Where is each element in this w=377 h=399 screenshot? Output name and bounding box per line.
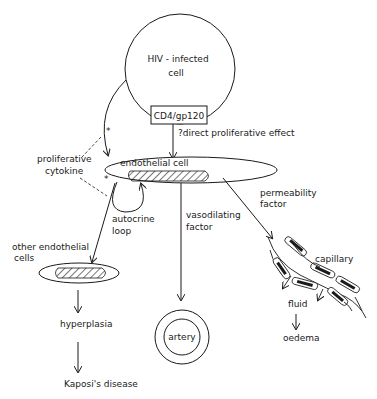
endothelial-cell-label: endothelial cell bbox=[120, 158, 189, 168]
permeability-label-1: permeability bbox=[260, 188, 317, 198]
asterisk-upper: * bbox=[106, 126, 111, 136]
hyperplasia-label: hyperplasia bbox=[60, 319, 112, 329]
other-cells-label-1: other endothelial bbox=[12, 242, 89, 252]
endothelial-cell: endothelial cell bbox=[105, 157, 277, 183]
other-cells-label-2: cells bbox=[14, 253, 34, 263]
capillary-label: capillary bbox=[315, 254, 354, 264]
hiv-cell-label-2: cell bbox=[168, 68, 184, 78]
artery-label: artery bbox=[168, 332, 196, 342]
autocrine-label-1: autocrine bbox=[112, 214, 155, 224]
asterisk-lower: * bbox=[104, 174, 109, 184]
other-nucleus-hatched bbox=[56, 268, 106, 278]
cytokine-arrow bbox=[104, 80, 126, 155]
permeability-label-2: factor bbox=[260, 199, 287, 209]
diagram-canvas: HIV - infected cell CD4/gp120 ?direct pr… bbox=[0, 0, 377, 399]
proliferative-cytokine-label-1: proliferative bbox=[37, 154, 92, 164]
receptor-box: CD4/gp120 bbox=[151, 106, 207, 124]
capillary-wall-upper bbox=[268, 237, 366, 318]
hiv-cell-label-1: HIV - infected bbox=[147, 54, 208, 64]
nucleus-hatched bbox=[128, 171, 208, 181]
cytokine-dash-lower bbox=[80, 178, 107, 196]
artery: artery bbox=[155, 310, 209, 364]
autocrine-loop-arrow bbox=[113, 182, 144, 212]
capillary: capillary bbox=[268, 235, 366, 318]
fluid-arrow-right bbox=[318, 289, 323, 300]
other-endothelial-cell bbox=[39, 263, 119, 283]
vasodilating-label-1: vasodilating bbox=[186, 210, 241, 220]
direct-effect-label: ?direct proliferative effect bbox=[178, 128, 295, 138]
oedema-label: oedema bbox=[283, 333, 320, 343]
proliferative-cytokine-label-2: cytokine bbox=[45, 166, 84, 176]
receptor-label: CD4/gp120 bbox=[154, 111, 205, 121]
autocrine-label-2: loop bbox=[112, 226, 132, 236]
fluid-label: fluid bbox=[288, 299, 308, 309]
kaposi-label: Kaposi's disease bbox=[64, 379, 138, 389]
vasodilating-label-2: factor bbox=[186, 222, 213, 232]
